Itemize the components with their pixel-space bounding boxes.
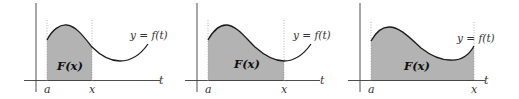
curve-label: y = f(t) — [129, 29, 168, 41]
area-function-figure: F(x) y = f(t) t a x F(x) y = f(t) t a x … — [0, 0, 519, 99]
upper-limit-label: x — [281, 83, 288, 96]
upper-limit-label: x — [471, 83, 478, 96]
area-label: F(x) — [233, 57, 260, 71]
t-axis-label: t — [159, 74, 164, 87]
curve-label: y = f(t) — [292, 29, 331, 41]
panel-2: F(x) y = f(t) t a x — [185, 3, 331, 96]
panel-3: F(x) y = f(t) t a x — [348, 3, 495, 96]
lower-limit-label: a — [368, 83, 375, 96]
shaded-area-F — [208, 25, 284, 81]
panel-1: F(x) y = f(t) t a x — [24, 3, 168, 96]
lower-limit-label: a — [44, 83, 51, 96]
upper-limit-label: x — [89, 83, 96, 96]
curve-label: y = f(t) — [456, 32, 495, 44]
area-label: F(x) — [56, 59, 83, 73]
t-axis-label: t — [320, 74, 325, 87]
area-label: F(x) — [403, 59, 430, 73]
lower-limit-label: a — [205, 83, 212, 96]
t-axis-label: t — [484, 74, 489, 87]
